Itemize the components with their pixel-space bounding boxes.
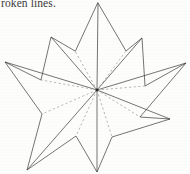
star-outer-boundary <box>5 3 186 172</box>
dashed-ray-i4 <box>97 90 112 137</box>
solid-ray-n <box>97 3 98 90</box>
solid-ray-w <box>5 62 97 90</box>
solid-ray-e <box>97 63 186 90</box>
dashed-ray-i5 <box>76 90 97 136</box>
dashed-ray-i1 <box>97 51 126 90</box>
center-point-dot <box>96 89 99 92</box>
dashed-ray-i3 <box>97 90 140 117</box>
dashed-ray-i6 <box>42 90 97 114</box>
dashed-ray-group <box>41 51 145 137</box>
solid-ray-ne <box>97 38 142 90</box>
solid-ray-nw <box>51 37 97 90</box>
solid-ray-group <box>5 3 186 172</box>
star-outline-path <box>5 3 186 172</box>
star-polygon-figure <box>0 0 190 174</box>
scanned-page: roken lines. <box>0 0 190 174</box>
